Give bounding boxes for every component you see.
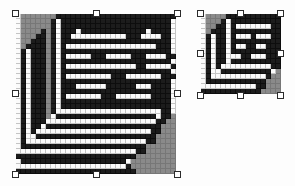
handle-top-right[interactable] xyxy=(174,10,181,17)
handle-bottom-right[interactable] xyxy=(174,171,181,178)
handle-bottom-center[interactable] xyxy=(93,171,100,178)
handle-top-left[interactable] xyxy=(12,10,19,17)
handle-middle-right[interactable] xyxy=(174,90,181,97)
handle-top-center[interactable] xyxy=(93,10,100,17)
handle-middle-left[interactable] xyxy=(12,90,19,97)
handle-bottom-left[interactable] xyxy=(12,171,19,178)
pixel-grid[interactable] xyxy=(201,14,281,94)
handle-top-center[interactable] xyxy=(237,10,244,17)
handle-bottom-left[interactable] xyxy=(197,92,204,99)
handle-bottom-center[interactable] xyxy=(237,92,244,99)
bitmap-editor-canvas[interactable] xyxy=(0,0,295,186)
handle-top-left[interactable] xyxy=(197,10,204,17)
document-icon-small[interactable] xyxy=(201,14,281,94)
document-icon-large[interactable] xyxy=(16,14,176,174)
pixel-grid[interactable] xyxy=(16,14,176,174)
handle-bottom-right[interactable] xyxy=(277,92,284,99)
handle-top-right[interactable] xyxy=(277,10,284,17)
handle-middle-left[interactable] xyxy=(197,50,204,57)
handle-middle-right[interactable] xyxy=(277,50,284,57)
